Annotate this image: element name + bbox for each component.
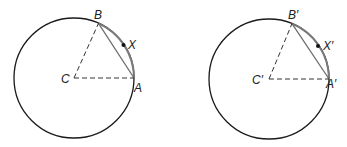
radius-cb-prime: [269, 24, 292, 79]
label-x-prime: X′: [322, 39, 334, 53]
label-a: A: [133, 81, 142, 95]
radius-cb: [74, 23, 99, 78]
figure-left: B X C A: [14, 8, 142, 138]
label-c: C: [61, 72, 70, 86]
point-x: [122, 43, 126, 47]
figure-right: B′ X′ C′ A′: [209, 8, 337, 139]
label-b-prime: B′: [288, 8, 299, 22]
label-c-prime: C′: [252, 73, 264, 87]
congruent-circles-diagram: B X C A B′ X′ C′ A′: [0, 0, 347, 147]
point-x-prime: [316, 44, 320, 48]
label-a-prime: A′: [325, 77, 337, 91]
label-b: B: [94, 8, 102, 22]
label-x: X: [127, 38, 137, 52]
